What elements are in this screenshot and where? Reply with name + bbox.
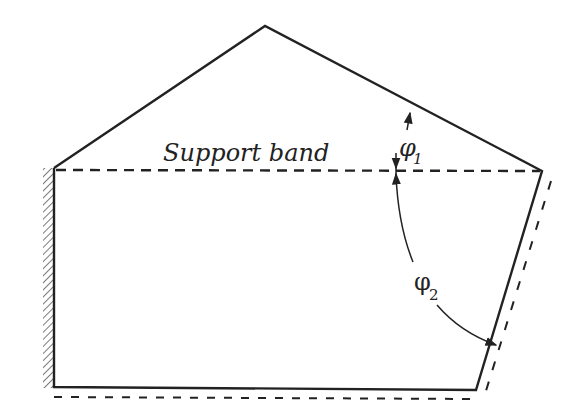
- phi2-subscript: 2: [429, 286, 439, 304]
- right-dashed-line: [485, 181, 551, 394]
- phi2-arc-lower: [437, 305, 496, 345]
- plate-outline: [54, 26, 542, 390]
- bottom-dashed-line: [54, 397, 476, 399]
- support-band-label: Support band: [163, 139, 329, 167]
- phi1-subscript: 1: [413, 150, 423, 168]
- phi1-arrow-up: [407, 113, 410, 130]
- support-band-line: [56, 170, 540, 171]
- fixed-wall-hatch: [43, 168, 54, 388]
- pentagon-diagram: Support band φ 1 φ 2: [0, 0, 576, 418]
- phi2-arc-upper: [396, 174, 413, 262]
